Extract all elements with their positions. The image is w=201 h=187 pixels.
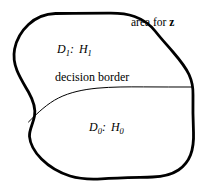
area-for-z-label: area for z	[131, 17, 174, 29]
region-upper-label: D1:H1	[57, 43, 92, 55]
region-upper-decision-subscript: 1	[66, 48, 70, 58]
area-for-z-prefix: area for	[131, 16, 169, 28]
region-lower-decision: D	[89, 120, 98, 134]
region-lower-hypothesis-subscript: 0	[120, 126, 124, 136]
region-lower-label: D0:H0	[89, 121, 124, 133]
region-upper-hypothesis-subscript: 1	[88, 48, 92, 58]
decision-border-label: decision border	[55, 71, 129, 83]
region-upper-hypothesis: H	[79, 42, 88, 56]
region-upper-separator: :	[70, 42, 74, 56]
region-lower-separator: :	[102, 120, 106, 134]
decision-region-figure: area for z D1:H1 decision border D0:H0	[0, 0, 201, 187]
region-lower-decision-subscript: 0	[98, 126, 102, 136]
region-outline-shape	[14, 13, 194, 179]
region-upper-decision: D	[57, 42, 66, 56]
region-lower-hypothesis: H	[111, 120, 120, 134]
area-for-z-variable: z	[169, 16, 174, 28]
